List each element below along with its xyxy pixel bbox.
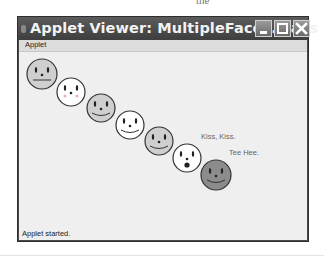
page-text-fragment: the [196, 0, 209, 6]
applet-viewer-window: Applet Viewer: MultipleFaces.class Apple… [17, 16, 309, 242]
close-button[interactable] [293, 20, 310, 37]
title-bar[interactable]: Applet Viewer: MultipleFaces.class [18, 17, 308, 40]
faces-drawing [19, 52, 309, 241]
face-5 [145, 127, 173, 155]
face-4 [116, 111, 144, 139]
face-label-kiss: Kiss, Kiss. [201, 132, 236, 141]
minimize-icon [260, 31, 267, 34]
face-1 [27, 59, 57, 89]
status-text: Applet started. [22, 229, 70, 238]
close-icon [295, 22, 308, 35]
menu-applet[interactable]: Applet [25, 40, 46, 49]
applet-canvas: Kiss, Kiss. Tee Hee. Applet started. [19, 52, 307, 240]
face-6 [173, 144, 201, 172]
page-divider [0, 255, 324, 256]
face-7 [201, 160, 231, 190]
menu-bar: Applet [19, 40, 307, 52]
face-3 [87, 94, 115, 122]
face-2 [57, 78, 85, 106]
maximize-icon [277, 23, 288, 34]
maximize-button[interactable] [274, 20, 291, 37]
window-icon[interactable] [21, 25, 26, 33]
minimize-button[interactable] [255, 20, 272, 37]
face-label-teehee: Tee Hee. [229, 148, 259, 157]
